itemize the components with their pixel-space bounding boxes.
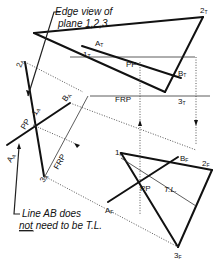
front-edge-2-3	[178, 170, 212, 247]
projector-aux-bf	[70, 103, 196, 150]
line-ab-note-line1: Line AB does	[22, 208, 81, 219]
label-2f: 2F	[202, 159, 210, 168]
arrow-down-icon	[194, 120, 198, 126]
label-3t: 3T	[178, 97, 186, 106]
label-bt: BT	[178, 69, 186, 78]
arrow-aux-icon	[74, 143, 80, 148]
label-pp-front: PP	[140, 184, 151, 193]
top-edge-2-3	[165, 17, 203, 92]
line-ab-note-line2: not need to be T.L.	[19, 220, 102, 231]
label-frp-aux: FRP	[52, 153, 68, 171]
label-ba: BA	[60, 90, 73, 103]
label-1f: 1F	[115, 148, 123, 157]
edge-view-diagram: 2T AT 1T PP BT FRP 3T 1F BF 2F PP T.L. A…	[0, 0, 220, 264]
label-1t: 1T	[83, 50, 91, 59]
label-tl: T.L.	[164, 185, 177, 194]
label-frp-top: FRP	[115, 95, 131, 104]
edge-view-note-line2: plane 1,2,3	[57, 18, 108, 29]
front-edge-1-3	[121, 153, 178, 247]
label-at: AT	[95, 39, 103, 48]
label-2t: 2T	[200, 6, 208, 15]
leader-edge-view	[28, 12, 60, 96]
label-pp-top: PP	[126, 60, 137, 69]
front-view	[108, 153, 212, 247]
label-bf: BF	[180, 154, 188, 163]
front-line-ab	[108, 157, 178, 202]
label-2a: 2A	[14, 58, 25, 69]
edge-view-note-line1: Edge view of	[55, 6, 113, 17]
leader-arrow-icon	[17, 143, 21, 149]
label-aa: AA	[5, 151, 17, 164]
aux-edge-view-plane	[25, 62, 44, 176]
frp-line-aux	[44, 96, 88, 178]
label-3f: 3F	[174, 251, 182, 260]
arrow-up-icon	[138, 120, 142, 126]
front-edge-1-2	[121, 153, 212, 170]
